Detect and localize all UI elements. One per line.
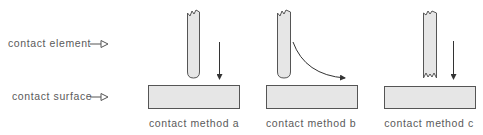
contact-surface-block-c	[385, 87, 476, 109]
contact-surface-block-b	[267, 86, 358, 109]
diagram-canvas	[0, 0, 483, 135]
contact-element-rod-a	[188, 10, 200, 78]
contact-element-rod-b	[278, 10, 291, 78]
pointer-arrow-element-icon	[90, 41, 108, 48]
pointer-arrow-surface-icon	[90, 94, 108, 101]
contact-surface-block-a	[149, 86, 240, 109]
contact-element-rod-c	[424, 11, 437, 78]
motion-arrow-curved-b-icon	[293, 42, 345, 78]
